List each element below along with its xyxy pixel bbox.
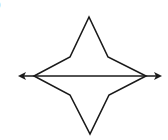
star-diagram — [0, 0, 168, 140]
